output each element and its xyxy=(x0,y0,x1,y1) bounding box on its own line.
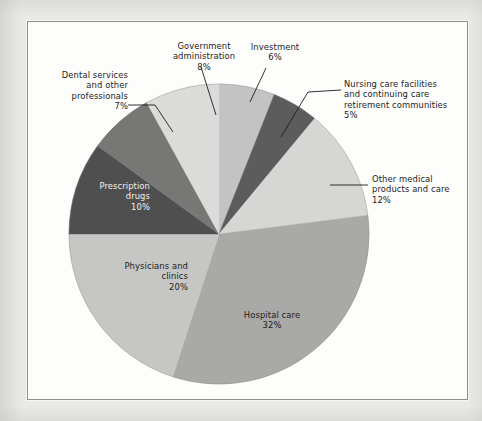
pie-chart: Government administration 8% Investment … xyxy=(28,22,469,401)
scanned-page: Government administration 8% Investment … xyxy=(0,0,482,421)
slice-label-dental-services: Dental services and other professionals … xyxy=(42,70,128,112)
slice-label-hospital-care: Hospital care 32% xyxy=(224,310,320,331)
slice-label-other-medical: Other medical products and care 12% xyxy=(372,174,472,205)
pie-slices xyxy=(69,84,369,384)
slice-label-investment: Investment 6% xyxy=(232,42,318,63)
chart-frame: Government administration 8% Investment … xyxy=(27,21,468,400)
slice-label-prescription-drugs: Prescription drugs 10% xyxy=(66,181,150,212)
slice-label-physicians-clinics: Physicians and clinics 20% xyxy=(90,261,188,292)
slice-label-nursing-care: Nursing care facilities and continuing c… xyxy=(344,79,468,121)
leader-line-nursing-care xyxy=(308,90,341,92)
